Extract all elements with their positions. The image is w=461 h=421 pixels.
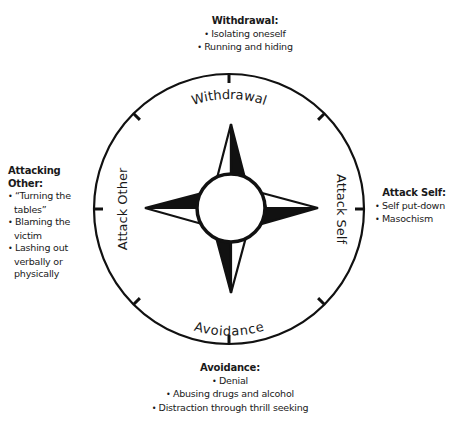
tick-nw <box>134 114 140 120</box>
tick-se <box>318 298 324 304</box>
tick-sw <box>134 298 140 304</box>
ring-label-attack-self: Attack Self <box>334 174 349 244</box>
compass-of-shame-diagram: Withdrawal Avoidance Attack Self Attack … <box>0 0 461 421</box>
tick-ne <box>318 114 324 120</box>
ring-label-avoidance: Avoidance <box>193 319 265 339</box>
ring-label-withdrawal: Withdrawal <box>190 87 269 108</box>
center-circle <box>197 174 265 242</box>
ring-label-attack-other: Attack Other <box>115 167 130 250</box>
